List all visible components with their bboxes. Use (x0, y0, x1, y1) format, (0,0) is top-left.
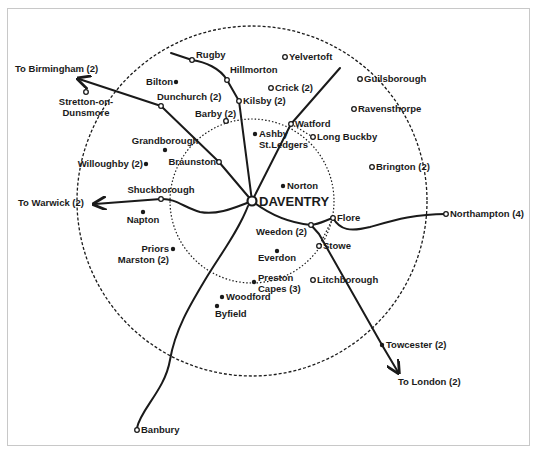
place-watford: Watford (289, 118, 331, 129)
destination-to-birmingham: To Birmingham (2) (15, 63, 98, 74)
town-marker-open-icon (358, 77, 363, 82)
place-priors-marston: PriorsMarston (2) (118, 243, 175, 265)
town-marker-open-icon (159, 197, 164, 202)
place-label: Norton (287, 180, 318, 191)
place-label: Northampton (4) (450, 208, 524, 219)
place-banbury: Banbury (135, 424, 181, 435)
destination-to-warwick: To Warwick (2) (18, 197, 84, 208)
place-label: Long Buckby (317, 131, 378, 142)
town-marker-open-icon (444, 212, 449, 217)
place-label: Yelvertoft (289, 51, 333, 62)
town-centre-daventry: DAVENTRY (248, 194, 330, 209)
town-marker-open-icon (309, 223, 314, 228)
place-hillmorton: Hillmorton (225, 64, 278, 82)
village-marker-filled-icon (220, 295, 224, 299)
place-label: Crick (2) (275, 82, 313, 93)
place-towcester: Towcester (2) (380, 339, 447, 350)
place-barby: Barby (2) (195, 108, 236, 123)
town-marker-open-icon (331, 216, 336, 221)
place-label: Guilsborough (364, 73, 426, 84)
place-label: Hillmorton (230, 64, 278, 75)
place-label: Barby (2) (195, 108, 236, 119)
town-marker-open-icon (217, 160, 222, 165)
place-dunchurch: Dunchurch (2) (157, 91, 221, 108)
place-label: Willoughby (2) (78, 158, 143, 169)
place-label: Banbury (141, 424, 180, 435)
town-marker-open-icon (311, 135, 316, 140)
village-marker-filled-icon (163, 148, 167, 152)
place-byfield: Byfield (215, 304, 247, 319)
village-marker-filled-icon (171, 247, 175, 251)
town-marker-open-icon (370, 165, 375, 170)
place-label: Dunchurch (2) (157, 91, 221, 102)
place-label: Litchborough (317, 274, 378, 285)
village-marker-filled-icon (281, 184, 285, 188)
place-willoughby: Willoughby (2) (78, 158, 149, 169)
town-marker-open-icon (283, 55, 288, 60)
town-marker-open-icon (135, 428, 140, 433)
place-label: Stowe (323, 240, 351, 251)
place-label: Watford (295, 118, 331, 129)
place-braunston: Braunston (169, 156, 222, 167)
town-marker-open-icon (190, 58, 195, 63)
place-norton: Norton (281, 180, 319, 191)
place-label: Bilton (146, 76, 173, 87)
place-stowe: Stowe (317, 240, 351, 251)
village-marker-filled-icon (380, 343, 384, 347)
town-marker-open-icon (159, 104, 164, 109)
place-woodford: Woodford (220, 291, 271, 302)
place-label: Brington (2) (376, 161, 430, 172)
route-warwick (95, 199, 252, 213)
place-shuckborough: Shuckborough (127, 184, 194, 201)
town-marker-open-icon (225, 78, 230, 83)
place-label: Woodford (226, 291, 271, 302)
place-label: Shuckborough (127, 184, 194, 195)
place-ravensthorpe: Ravensthorpe (352, 103, 422, 114)
place-bilton: Bilton (146, 76, 178, 87)
place-label: Flore (337, 212, 360, 223)
place-label: Kilsby (2) (243, 95, 286, 106)
place-label: Weedon (2) (256, 226, 307, 237)
village-marker-filled-icon (144, 162, 148, 166)
town-marker-open-icon (352, 107, 357, 112)
place-label: Grandborough (132, 135, 199, 146)
place-napton: Napton (127, 210, 160, 225)
place-label: Braunston (169, 156, 217, 167)
place-label: Rugby (196, 49, 226, 60)
place-label: Everdon (258, 252, 296, 263)
place-litchborough: Litchborough (311, 274, 379, 285)
daventry-marker-icon (248, 197, 257, 206)
village-marker-filled-icon (253, 132, 257, 136)
place-brington: Brington (2) (370, 161, 430, 172)
town-marker-open-icon (317, 244, 322, 249)
town-marker-open-icon (224, 119, 229, 124)
place-yelvertoft: Yelvertoft (283, 51, 333, 62)
village-marker-filled-icon (174, 80, 178, 84)
town-marker-open-icon (84, 90, 89, 95)
place-guilsborough: Guilsborough (358, 73, 427, 84)
place-label: Stretton-on-Dunsmore (59, 96, 113, 118)
destination-to-london: To London (2) (398, 376, 461, 387)
place-label: Towcester (2) (386, 339, 447, 350)
town-marker-open-icon (237, 99, 242, 104)
place-everdon: Everdon (258, 249, 296, 263)
daventry-label: DAVENTRY (259, 194, 329, 209)
place-label: PriorsMarston (2) (118, 243, 169, 265)
place-label: Ravensthorpe (358, 103, 421, 114)
area-map: RugbyHillmortonYelvertoftCrick (2)Kilsby… (0, 0, 538, 456)
place-crick: Crick (2) (269, 82, 313, 93)
town-marker-open-icon (311, 278, 316, 283)
place-long-buckby: Long Buckby (311, 131, 378, 142)
place-ashby-st-ledgers: AshbySt.Ledgers (253, 128, 308, 150)
place-stretton-on-dunsmore: Stretton-on-Dunsmore (59, 90, 113, 118)
town-marker-open-icon (289, 122, 294, 127)
place-kilsby: Kilsby (2) (237, 95, 286, 106)
place-label: Byfield (215, 308, 247, 319)
place-label: AshbySt.Ledgers (259, 128, 308, 150)
place-label: Napton (127, 214, 160, 225)
town-marker-open-icon (269, 86, 274, 91)
village-marker-filled-icon (252, 280, 256, 284)
place-northampton: Northampton (4) (444, 208, 524, 219)
